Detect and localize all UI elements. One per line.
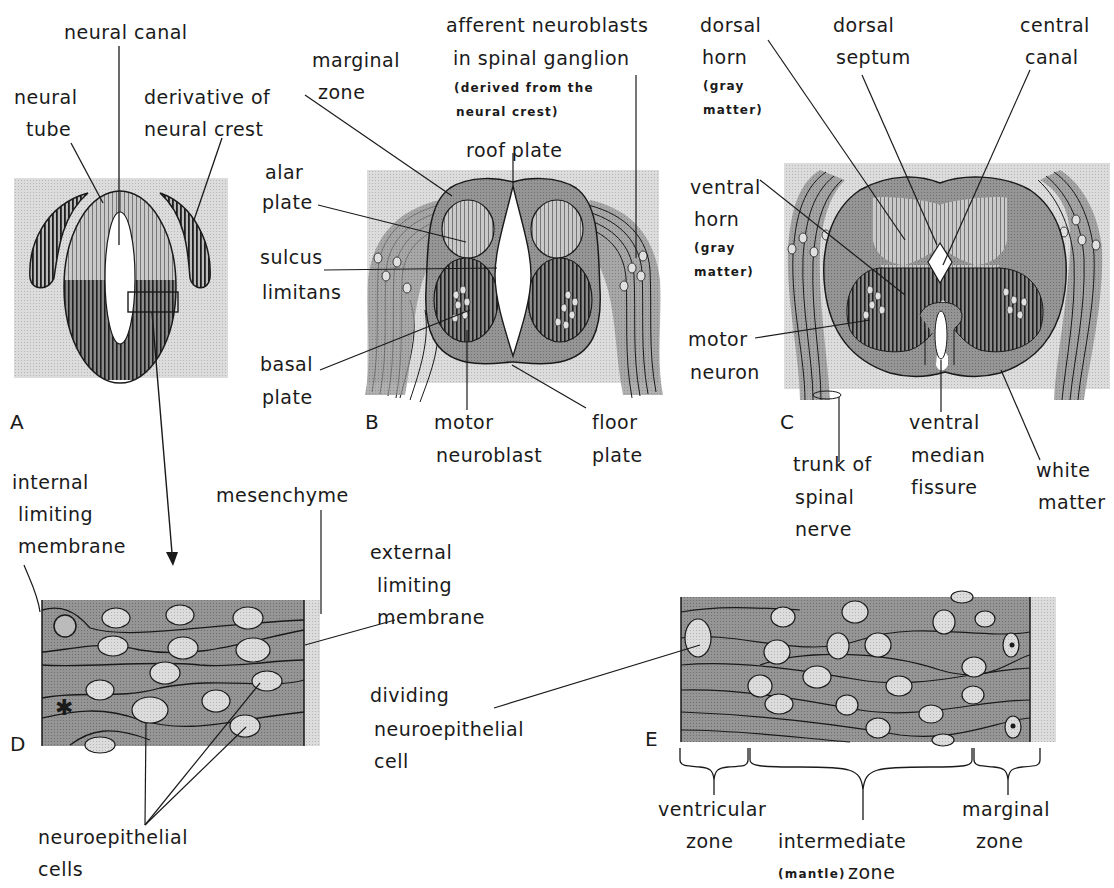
- label-afferent-line2: in spinal ganglion: [453, 46, 630, 71]
- panel-b-cross-section: [305, 75, 663, 410]
- label-motor-neuron-line1: motor: [688, 327, 748, 352]
- label-floor-plate-line1: floor: [592, 410, 638, 435]
- label-marginal-zone-line1: marginal: [312, 48, 400, 73]
- label-marginal-zone-line2: zone: [318, 80, 365, 105]
- label-basal-plate-line1: basal: [260, 352, 313, 377]
- label-mesenchyme: mesenchyme: [216, 483, 349, 508]
- label-neural-tube-line1: neural: [14, 85, 78, 110]
- label-trunk-line2: spinal: [795, 485, 854, 510]
- label-afferent-line3: (derived from the: [454, 80, 594, 96]
- label-ventral-horn-line2: horn: [694, 207, 739, 232]
- label-roof-plate: roof plate: [466, 138, 563, 163]
- label-motor-neuron-line2: neuron: [690, 360, 760, 385]
- label-central-canal-line2: canal: [1025, 45, 1079, 70]
- panel-e-differentiating-wall: [494, 591, 1056, 820]
- label-ventricular-zone-line2: zone: [686, 829, 733, 854]
- label-marginal-zone-e-line1: marginal: [962, 797, 1050, 822]
- label-neural-tube-line2: tube: [26, 117, 71, 142]
- label-neuroepithelial-cells-line2: cells: [38, 857, 83, 882]
- label-external-membrane-line3: membrane: [377, 605, 485, 630]
- svg-text:✱: ✱: [55, 695, 73, 720]
- label-dorsal-horn-line3: (gray: [703, 78, 745, 94]
- panel-letter-e: E: [645, 727, 658, 751]
- label-crest-line1: derivative of: [144, 85, 270, 110]
- label-trunk-line3: nerve: [795, 517, 852, 542]
- label-dorsal-horn-line2: horn: [702, 45, 747, 70]
- label-ventral-horn-line1: ventral: [690, 175, 761, 200]
- label-fissure-line2: median: [911, 443, 985, 468]
- panel-c-spinal-cord: [755, 40, 1110, 462]
- label-central-canal-line1: central: [1020, 13, 1090, 38]
- label-external-membrane-line2: limiting: [377, 573, 452, 598]
- label-fissure-line1: ventral: [909, 410, 980, 435]
- label-dorsal-septum-line1: dorsal: [833, 13, 894, 38]
- label-white-matter-line1: white: [1036, 458, 1091, 483]
- label-neural-canal: neural canal: [64, 20, 188, 45]
- label-external-membrane-line1: external: [370, 540, 452, 565]
- label-afferent-line1: afferent neuroblasts: [446, 13, 648, 38]
- label-basal-plate-line2: plate: [262, 385, 313, 410]
- label-marginal-zone-e-line2: zone: [976, 829, 1023, 854]
- label-trunk-line1: trunk of: [793, 452, 872, 477]
- label-white-matter-line2: matter: [1038, 490, 1106, 515]
- panel-letter-b: B: [365, 410, 379, 434]
- label-dorsal-septum-line2: septum: [836, 45, 911, 70]
- label-intermediate-zone-line2: (mantle): [778, 866, 846, 882]
- label-sulcus-line1: sulcus: [260, 245, 323, 270]
- label-dorsal-horn-line1: dorsal: [700, 13, 761, 38]
- label-intermediate-zone-line3: zone: [848, 860, 895, 885]
- label-intermediate-zone-line1: intermediate: [778, 829, 906, 854]
- label-dividing-cell-line2: neuroepithelial: [374, 717, 524, 742]
- label-floor-plate-line2: plate: [592, 443, 643, 468]
- label-ventral-horn-line4: matter): [694, 264, 754, 280]
- label-internal-membrane-line3: membrane: [18, 534, 126, 559]
- label-internal-membrane-line2: limiting: [18, 502, 93, 527]
- panel-letter-a: A: [10, 410, 24, 434]
- label-internal-membrane-line1: internal: [12, 470, 89, 495]
- label-dividing-cell-line1: dividing: [370, 683, 449, 708]
- label-ventricular-zone-line1: ventricular: [658, 797, 766, 822]
- label-dividing-cell-line3: cell: [374, 749, 409, 774]
- label-fissure-line3: fissure: [911, 475, 977, 500]
- label-alar-plate-line2: plate: [262, 190, 313, 215]
- label-motor-neuroblast-line1: motor: [434, 410, 494, 435]
- label-neuroepithelial-cells-line1: neuroepithelial: [38, 825, 188, 850]
- label-afferent-line4: neural crest): [456, 104, 559, 120]
- label-sulcus-line2: limitans: [262, 280, 341, 305]
- label-crest-line2: neural crest: [144, 117, 263, 142]
- panel-letter-c: C: [780, 410, 794, 434]
- panel-letter-d: D: [10, 732, 25, 756]
- label-motor-neuroblast-line2: neuroblast: [436, 443, 542, 468]
- label-dorsal-horn-line4: matter): [703, 102, 763, 118]
- label-ventral-horn-line3: (gray: [694, 240, 736, 256]
- label-alar-plate-line1: alar: [265, 160, 303, 185]
